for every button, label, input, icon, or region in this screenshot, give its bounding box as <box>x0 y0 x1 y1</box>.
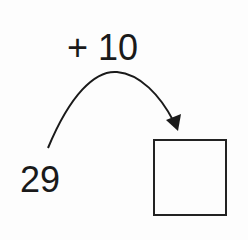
operation-label: + 10 <box>67 30 138 66</box>
arrowhead-icon <box>166 114 181 131</box>
start-number: 29 <box>20 162 60 198</box>
jump-arc <box>48 72 174 148</box>
answer-box[interactable] <box>153 139 227 216</box>
